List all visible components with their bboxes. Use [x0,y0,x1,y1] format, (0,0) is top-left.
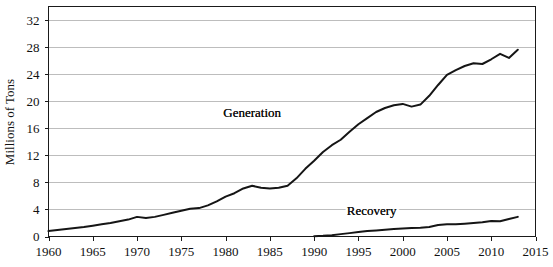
y-tick-label-32: 32 [27,13,40,28]
y-tick-label-24: 24 [27,67,41,82]
x-tick-label-2010: 2010 [478,244,504,259]
y-tick-label-28: 28 [27,40,40,55]
x-tick-label-1965: 1965 [80,244,106,259]
x-tick-label-2005: 2005 [434,244,460,259]
y-tick-label-20: 20 [27,94,40,109]
y-tick-label-16: 16 [27,121,41,136]
y-axis-title: Millions of Tons [2,79,17,165]
y-tick-label-8: 8 [33,175,40,190]
x-tick-label-1975: 1975 [168,244,194,259]
x-tick-label-1980: 1980 [213,244,239,259]
x-tick-label-2015: 2015 [523,244,549,259]
x-tick-label-1990: 1990 [301,244,327,259]
x-tick-label-2000: 2000 [390,244,416,259]
y-tick-label-12: 12 [27,148,40,163]
annotation-label-recovery: Recovery [347,203,397,218]
x-tick-label-1970: 1970 [124,244,150,259]
y-tick-label-0: 0 [33,229,40,244]
line-chart: 048121620242832 196019651970197519801985… [0,0,553,267]
x-tick-label-1985: 1985 [257,244,283,259]
x-tick-label-1960: 1960 [36,244,62,259]
x-tick-label-1995: 1995 [345,244,371,259]
chart-container: 048121620242832 196019651970197519801985… [0,0,553,267]
y-tick-label-4: 4 [33,202,40,217]
annotation-label-generation: Generation [223,105,281,120]
